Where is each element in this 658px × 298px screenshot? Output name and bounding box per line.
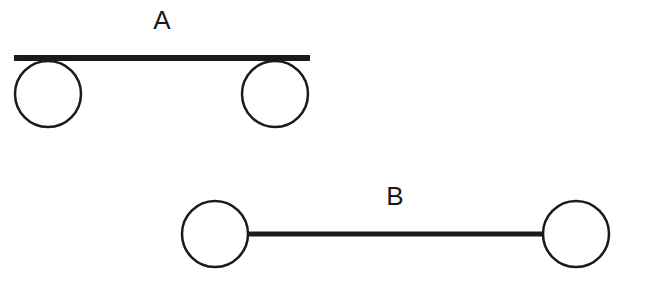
diagram-canvas: A B xyxy=(0,0,658,298)
figure-b: B xyxy=(182,181,609,267)
figure-a-right-circle xyxy=(242,61,308,127)
figure-b-right-circle xyxy=(543,201,609,267)
figure-a-label: A xyxy=(153,5,171,35)
figure-b-left-circle xyxy=(182,201,248,267)
figure-a: A xyxy=(14,5,310,127)
figure-a-left-circle xyxy=(15,61,81,127)
figure-b-label: B xyxy=(386,181,403,211)
